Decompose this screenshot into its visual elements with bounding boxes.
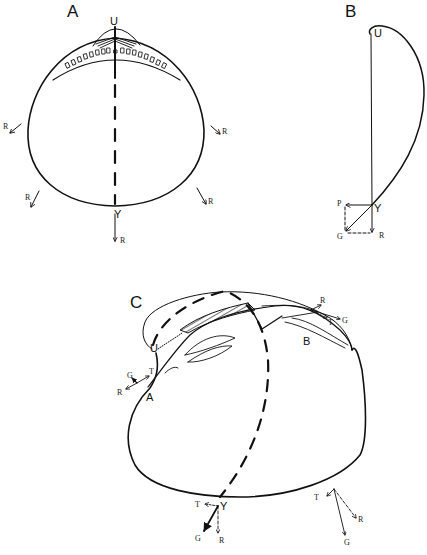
- panel-b: B U Y P G R: [337, 2, 424, 241]
- point-u-a: U: [110, 15, 118, 27]
- point-b-c: B: [303, 335, 310, 347]
- stipple-line: [158, 333, 182, 349]
- svg-text:T: T: [195, 500, 200, 509]
- valve-outline-c: [128, 348, 365, 497]
- axis-line-b: [371, 34, 372, 205]
- ligament-hatched: [180, 303, 255, 333]
- panel-a: A: [3, 2, 228, 245]
- anterior-fold: [165, 367, 178, 373]
- panel-c: C U A B Y: [117, 291, 366, 547]
- svg-text:T: T: [328, 318, 333, 327]
- svg-text:P: P: [337, 199, 342, 208]
- panel-label-b: B: [345, 2, 356, 21]
- point-a-c: A: [146, 391, 154, 403]
- posterior-inner-line: [292, 318, 348, 345]
- panel-label-a: A: [67, 2, 79, 21]
- svg-text:R: R: [3, 122, 9, 131]
- svg-text:R: R: [117, 388, 123, 397]
- point-u-b: U: [374, 27, 382, 39]
- svg-text:R: R: [219, 536, 225, 545]
- svg-text:G: G: [337, 232, 343, 241]
- vector-triad-b: R T G: [311, 296, 348, 327]
- svg-text:R: R: [222, 127, 228, 136]
- svg-text:R: R: [208, 197, 214, 206]
- point-y-b: Y: [374, 202, 382, 214]
- svg-text:G: G: [127, 371, 133, 380]
- svg-text:R: R: [358, 515, 364, 524]
- panel-label-c: C: [130, 293, 142, 312]
- svg-text:R: R: [120, 236, 126, 245]
- point-y-c: Y: [220, 500, 228, 512]
- svg-text:R: R: [25, 193, 31, 202]
- svg-text:T: T: [314, 493, 319, 502]
- figure-canvas: A: [0, 0, 427, 555]
- svg-text:R: R: [320, 296, 326, 305]
- svg-text:G: G: [342, 316, 348, 325]
- svg-text:G: G: [195, 534, 201, 543]
- svg-text:G: G: [344, 538, 350, 547]
- svg-text:T: T: [149, 367, 154, 376]
- svg-text:R: R: [379, 231, 385, 240]
- point-u-c: U: [150, 342, 158, 354]
- inner-fold-1: [185, 336, 235, 355]
- vector-triad-pv: T R G: [314, 489, 364, 547]
- ridge-line: [148, 305, 352, 387]
- profile-outline-b: [370, 26, 425, 205]
